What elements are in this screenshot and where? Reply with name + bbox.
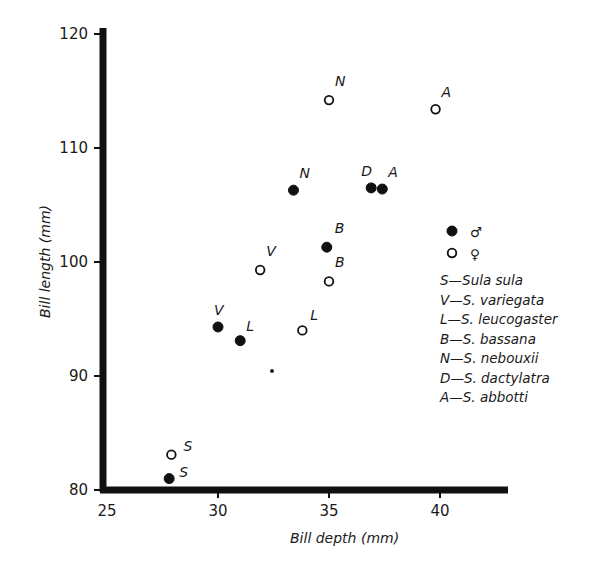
legend-symbol-female: ♀ (470, 246, 480, 262)
point-female-N (325, 96, 334, 105)
y-tick-label: 90 (69, 367, 88, 385)
legend-species-S: S—Sula sula (440, 272, 523, 288)
point-label: B (335, 220, 345, 236)
point-label: S (179, 464, 188, 480)
point-label: A (387, 164, 398, 180)
y-tick-label: 110 (59, 139, 88, 157)
point-male-V (213, 322, 223, 332)
point-label: D (361, 163, 372, 179)
x-ticks: 25303540 (97, 492, 449, 520)
legend-species-L: L—S. leucogaster (440, 311, 559, 327)
point-label: L (246, 318, 254, 334)
legend-species-D: D—S. dactylatra (440, 370, 550, 386)
point-label: S (183, 438, 192, 454)
point-male-N (288, 185, 298, 195)
x-tick-label: 30 (208, 502, 227, 520)
legend-symbol-male: ♂ (470, 224, 482, 240)
y-axis-title: Bill length (mm) (37, 205, 53, 318)
point-male-D (366, 183, 376, 193)
point-male-S (164, 474, 174, 484)
x-axis-title: Bill depth (mm) (290, 530, 399, 546)
point-female-A (431, 105, 440, 114)
point-label: N (335, 73, 346, 89)
point-male-A (377, 184, 387, 194)
x-tick-label: 25 (97, 502, 116, 520)
y-tick-label: 120 (59, 25, 88, 43)
legend-species-A: A—S. abbotti (439, 389, 528, 405)
point-female-S (167, 450, 176, 459)
legend-species-B: B—S. bassana (440, 331, 536, 347)
point-male-B (322, 242, 332, 252)
point-label: A (441, 84, 452, 100)
point-label: L (310, 307, 318, 323)
y-ticks: 8090100110120 (59, 25, 100, 499)
point-label: V (266, 243, 277, 259)
x-tick-label: 40 (430, 502, 449, 520)
legend: ♂♀S—Sula sulaV—S. variegataL—S. leucogas… (439, 224, 559, 405)
legend-species-N: N—S. nebouxii (440, 350, 539, 366)
y-tick-label: 80 (69, 481, 88, 499)
point-label: V (214, 302, 225, 318)
data-points: SVLBNDASVLBNA (164, 73, 451, 483)
legend-marker-female (448, 249, 457, 258)
point-female-L (298, 326, 307, 335)
stray-mark (270, 369, 274, 373)
point-female-V (256, 266, 265, 275)
y-tick-label: 100 (59, 253, 88, 271)
scatter-chart: 8090100110120 25303540 Bill depth (mm) B… (0, 0, 616, 573)
point-female-B (325, 277, 334, 286)
x-tick-label: 35 (319, 502, 338, 520)
point-label: N (299, 165, 310, 181)
point-label: B (335, 254, 345, 270)
legend-species-V: V—S. variegata (440, 292, 544, 308)
legend-marker-male (447, 226, 457, 236)
point-male-L (235, 336, 245, 346)
